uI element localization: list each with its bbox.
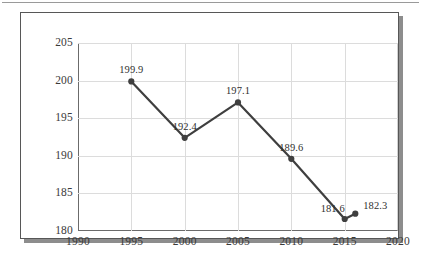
y-axis-tick-label: 200 bbox=[55, 74, 73, 86]
page-top-rule bbox=[2, 2, 419, 3]
x-axis-tick-labels: 1990199520002005201020152020 bbox=[78, 235, 398, 255]
data-point-marker bbox=[342, 216, 348, 222]
y-axis-tick-label: 190 bbox=[55, 149, 73, 161]
data-point-marker bbox=[288, 156, 294, 162]
x-axis-tick-label: 2000 bbox=[173, 235, 197, 247]
plot-area: 199.9192.4197.1189.6181.6182.3 bbox=[78, 43, 398, 231]
data-point-label: 189.6 bbox=[279, 142, 303, 153]
data-point-marker bbox=[182, 135, 188, 141]
x-axis-tick-label: 1990 bbox=[66, 235, 90, 247]
figure-border-box: 180185190195200205 199.9192.4197.1189.61… bbox=[20, 12, 399, 239]
y-axis-tick-label: 195 bbox=[55, 111, 73, 123]
y-axis-tick-label: 185 bbox=[55, 186, 73, 198]
x-axis-tick-label: 2015 bbox=[333, 235, 357, 247]
y-axis-tick-label: 205 bbox=[55, 36, 73, 48]
y-axis-tick-labels: 180185190195200205 bbox=[45, 43, 73, 231]
series-polyline bbox=[131, 81, 355, 219]
x-axis-tick-label: 2020 bbox=[386, 235, 410, 247]
data-point-marker bbox=[352, 211, 358, 217]
x-axis-tick-label: 1995 bbox=[119, 235, 143, 247]
data-point-label: 197.1 bbox=[226, 85, 250, 96]
data-point-marker bbox=[128, 78, 134, 84]
data-point-label: 192.4 bbox=[173, 121, 197, 132]
figure-page: 180185190195200205 199.9192.4197.1189.61… bbox=[0, 0, 421, 260]
x-axis-tick-label: 2010 bbox=[279, 235, 303, 247]
data-point-label: 182.3 bbox=[363, 200, 387, 211]
x-axis-tick-label: 2005 bbox=[226, 235, 250, 247]
figure-shadow-right bbox=[399, 16, 403, 243]
data-point-marker bbox=[235, 99, 241, 105]
data-point-label: 181.6 bbox=[321, 203, 345, 214]
data-point-label: 199.9 bbox=[119, 64, 143, 75]
